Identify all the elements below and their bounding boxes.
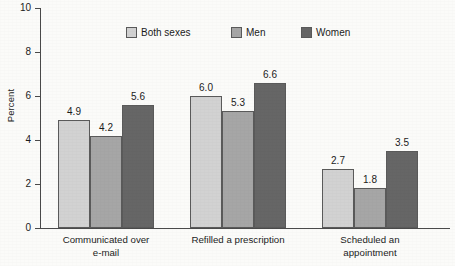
bar-value-label: 3.5: [380, 137, 424, 148]
legend-swatch-icon: [231, 27, 242, 38]
y-tick-label: 8: [0, 47, 31, 57]
bar-value-label: 6.6: [248, 69, 292, 80]
bar: [122, 105, 154, 228]
x-axis-line: [40, 228, 450, 229]
x-category-label: Communicated over e-mail: [36, 234, 176, 259]
legend-label: Men: [246, 27, 265, 38]
bar: [90, 136, 122, 228]
bar: [254, 83, 286, 228]
y-tick-label: 2: [0, 179, 31, 189]
legend-item: Men: [231, 25, 265, 39]
legend-swatch-icon: [126, 27, 137, 38]
y-tick-label: 4: [0, 135, 31, 145]
x-category-label: Scheduled an appointment: [300, 234, 440, 259]
y-tick-label: 0: [0, 223, 31, 233]
bar: [386, 151, 418, 228]
y-tick-mark: [35, 184, 40, 185]
legend-item: Women: [301, 25, 350, 39]
chart-figure: Percent 1086420 4.94.25.66.05.36.62.71.8…: [0, 0, 455, 266]
y-axis-title: Percent: [5, 71, 16, 141]
bar: [354, 188, 386, 228]
x-category-label: Refilled a prescription: [168, 234, 308, 247]
y-tick-mark: [35, 8, 40, 9]
legend-label: Both sexes: [141, 27, 190, 38]
bar: [58, 120, 90, 228]
y-tick-label: 6: [0, 91, 31, 101]
bar: [222, 111, 254, 228]
bar-value-label: 6.0: [184, 82, 228, 93]
plot-area: Percent 1086420 4.94.25.66.05.36.62.71.8…: [0, 0, 455, 266]
y-tick-mark: [35, 52, 40, 53]
y-tick-label: 10: [0, 3, 31, 13]
legend-label: Women: [316, 27, 350, 38]
y-axis-line: [40, 8, 41, 229]
y-tick-mark: [35, 96, 40, 97]
bar-value-label: 2.7: [316, 155, 360, 166]
legend-item: Both sexes: [126, 25, 190, 39]
bar-value-label: 4.9: [52, 106, 96, 117]
bar-value-label: 5.6: [116, 91, 160, 102]
y-tick-mark: [35, 228, 40, 229]
y-tick-mark: [35, 140, 40, 141]
bar: [190, 96, 222, 228]
legend-swatch-icon: [301, 27, 312, 38]
